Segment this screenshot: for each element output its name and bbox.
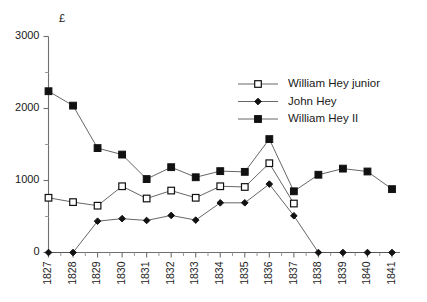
data-point (45, 249, 52, 256)
legend-item[interactable]: William Hey II (238, 112, 358, 124)
legend-label: John Hey (288, 95, 337, 107)
chart-legend: William Hey juniorJohn HeyWilliam Hey II (238, 77, 380, 124)
x-tick-label: 1834 (213, 261, 225, 285)
data-point (168, 164, 175, 171)
data-point (340, 165, 347, 172)
data-point (119, 215, 126, 222)
data-point (315, 249, 322, 256)
data-point (94, 145, 101, 152)
data-point (389, 249, 396, 256)
x-tick-label: 1837 (287, 261, 299, 285)
data-point (192, 194, 199, 201)
legend-label: William Hey junior (288, 77, 380, 89)
x-tick-label: 1829 (90, 261, 102, 285)
legend-item[interactable]: William Hey junior (238, 77, 380, 89)
chart-container: £ 0100020003000 182718281829183018311832… (0, 0, 427, 302)
data-point (217, 168, 224, 175)
y-tick-label: 0 (33, 245, 39, 257)
line-chart: £ 0100020003000 182718281829183018311832… (0, 0, 427, 302)
x-tick-label: 1833 (188, 261, 200, 285)
y-axis-title-group: £ (59, 12, 65, 24)
data-point (192, 174, 199, 181)
x-tick-label: 1838 (311, 261, 323, 285)
data-point (70, 199, 77, 206)
data-point (290, 188, 297, 195)
y-tick-label: 2000 (15, 101, 39, 113)
data-point (217, 183, 224, 190)
x-tick-label: 1832 (164, 261, 176, 285)
data-point (192, 217, 199, 224)
data-point (266, 136, 273, 143)
y-axis: 0100020003000 (15, 29, 48, 257)
x-tick-label: 1831 (139, 261, 151, 285)
x-tick-label: 1839 (336, 261, 348, 285)
data-point (340, 249, 347, 256)
data-point (143, 217, 150, 224)
data-point (119, 183, 126, 190)
x-tick-label: 1830 (115, 261, 127, 285)
legend-item[interactable]: John Hey (238, 95, 337, 107)
data-point (119, 151, 126, 158)
data-point (45, 88, 52, 95)
series-line (49, 184, 393, 252)
x-tick-label: 1841 (385, 261, 397, 285)
legend-marker (255, 81, 262, 88)
data-point (70, 102, 77, 109)
x-tick-label: 1840 (360, 261, 372, 285)
x-tick-label: 1836 (262, 261, 274, 285)
data-point (389, 186, 396, 193)
data-point (168, 187, 175, 194)
data-point (291, 200, 298, 207)
data-point (315, 171, 322, 178)
y-axis-title: £ (59, 12, 65, 24)
data-point (94, 202, 101, 209)
data-point (266, 160, 273, 167)
data-point (45, 194, 52, 201)
series-3 (45, 88, 395, 195)
data-point (143, 176, 150, 183)
data-point (217, 200, 224, 207)
data-point (143, 195, 150, 202)
data-point (364, 168, 371, 175)
x-tick-label: 1828 (66, 261, 78, 285)
data-point (241, 168, 248, 175)
legend-marker (255, 98, 262, 105)
x-axis: 1827182818291830183118321833183418351836… (41, 253, 400, 285)
legend-label: William Hey II (288, 112, 358, 124)
series-2 (45, 181, 395, 256)
x-tick-label: 1827 (41, 261, 53, 285)
y-tick-label: 1000 (15, 173, 39, 185)
series-line (49, 91, 393, 191)
data-point (168, 212, 175, 219)
data-point (241, 184, 248, 191)
y-tick-label: 3000 (15, 29, 39, 41)
data-point (364, 249, 371, 256)
legend-marker (255, 116, 262, 123)
x-tick-label: 1835 (238, 261, 250, 285)
